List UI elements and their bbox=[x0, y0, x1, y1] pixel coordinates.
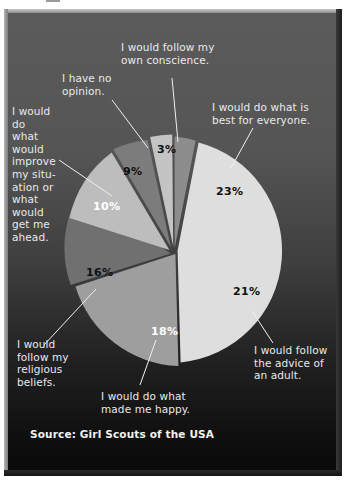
slice-value-10: 10% bbox=[93, 200, 121, 213]
callout-advice-of-adult: I would followthe advice ofan adult. bbox=[254, 344, 346, 382]
callout-improve-my-situation: I woulddowhatwouldimprovemy situ-ation o… bbox=[12, 105, 68, 244]
figure-root: shows that answers. bbox=[0, 0, 350, 483]
slice-value-23: 23% bbox=[216, 185, 244, 198]
leader-line-religious bbox=[44, 289, 96, 345]
leader-line-best-everyone bbox=[231, 128, 253, 168]
callout-conscience: I would follow myown conscience. bbox=[121, 41, 231, 66]
slice-value-18: 18% bbox=[151, 325, 179, 338]
callout-religious-beliefs: I wouldfollow myreligiousbeliefs. bbox=[17, 338, 101, 388]
slice-value-21: 21% bbox=[233, 285, 261, 298]
pie-slice-best-for-everyone bbox=[178, 143, 282, 363]
callout-best-for-everyone: I would do what isbest for everyone. bbox=[212, 101, 334, 126]
slice-value-16: 16% bbox=[86, 266, 114, 279]
slice-value-3: 3% bbox=[157, 143, 176, 156]
source-note: Source: Girl Scouts of the USA bbox=[30, 428, 214, 440]
leader-line-conscience bbox=[172, 78, 178, 142]
callout-made-me-happy: I would do whatmade me happy. bbox=[101, 390, 219, 415]
leader-line-no-opinion bbox=[112, 100, 148, 148]
slice-value-9: 9% bbox=[123, 165, 142, 178]
leader-line-adult bbox=[252, 311, 273, 343]
callout-no-opinion: I have noopinion. bbox=[62, 72, 132, 97]
